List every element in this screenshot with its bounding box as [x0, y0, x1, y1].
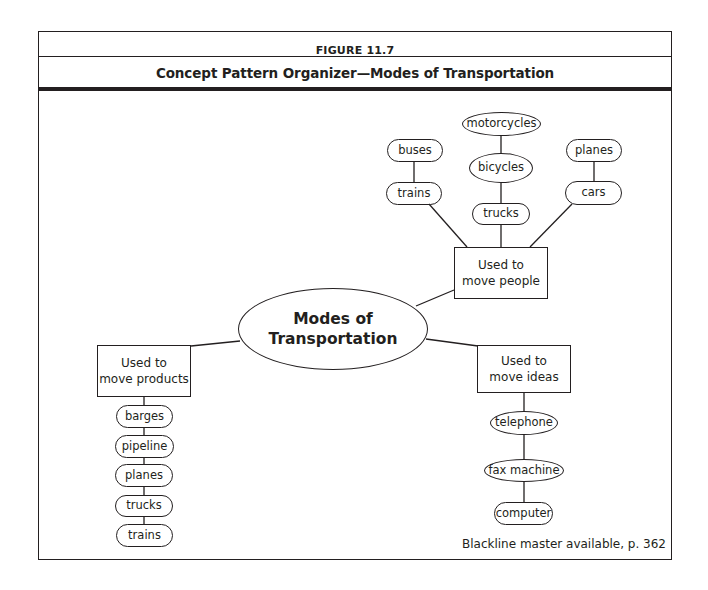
category-label-line1: Used to [501, 353, 547, 369]
central-concept-line1: Modes of [293, 309, 373, 329]
node-trucks-people: trucks [472, 203, 530, 225]
node-buses: buses [387, 139, 443, 162]
node-planes-people: planes [566, 139, 622, 162]
category-label-line2: move products [99, 371, 189, 387]
central-concept: Modes of Transportation [238, 288, 428, 370]
node-trains-people: trains [386, 182, 442, 205]
node-trucks-products: trucks [115, 495, 173, 517]
node-pipeline: pipeline [115, 435, 174, 458]
node-telephone: telephone [490, 411, 558, 435]
node-planes-products: planes [115, 464, 173, 487]
node-fax-machine: fax machine [484, 459, 564, 482]
node-cars: cars [565, 181, 622, 205]
central-concept-line2: Transportation [269, 329, 398, 349]
node-motorcycles: motorcycles [462, 112, 541, 136]
category-label-line2: move people [462, 273, 540, 289]
category-move-products: Used to move products [97, 345, 191, 397]
node-trains-products: trains [116, 524, 173, 547]
category-move-ideas: Used to move ideas [477, 345, 571, 393]
node-computer: computer [494, 502, 553, 525]
node-barges: barges [116, 405, 173, 428]
category-label-line2: move ideas [489, 369, 558, 385]
blackline-note: Blackline master available, p. 362 [462, 537, 666, 551]
category-move-people: Used to move people [454, 247, 548, 299]
node-bicycles: bicycles [469, 153, 533, 183]
category-label-line1: Used to [121, 355, 167, 371]
category-label-line1: Used to [478, 257, 524, 273]
